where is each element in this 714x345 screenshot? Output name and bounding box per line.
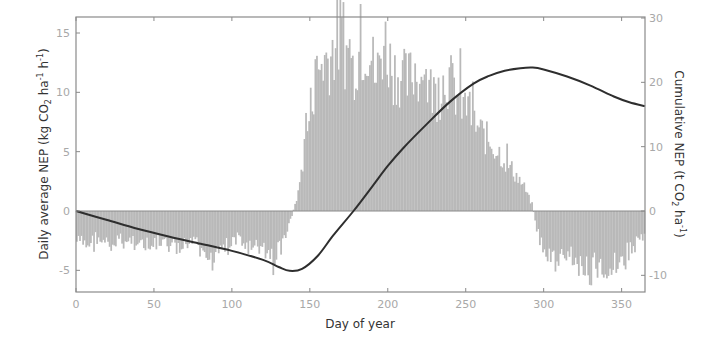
nep-bar	[631, 211, 633, 253]
nep-bar	[235, 211, 237, 245]
nep-bar	[224, 211, 226, 252]
nep-bar	[547, 211, 549, 261]
nep-bar	[567, 211, 569, 251]
nep-bar	[564, 211, 566, 258]
nep-bar	[294, 204, 296, 211]
nep-bar	[435, 84, 437, 211]
nep-bar	[280, 211, 282, 255]
nep-bar	[140, 211, 142, 240]
nep-bar	[194, 211, 196, 239]
nep-bar	[319, 70, 321, 211]
nep-bar	[428, 80, 430, 211]
nep-bar	[182, 211, 184, 249]
nep-bar	[541, 211, 543, 238]
nep-bar	[329, 95, 331, 211]
nep-bar	[464, 93, 466, 211]
nep-bar	[461, 119, 463, 211]
nep-bar	[219, 211, 221, 245]
x-tick-label: 150	[299, 298, 320, 311]
nep-bar	[495, 156, 497, 211]
nep-bar	[500, 166, 502, 211]
nep-bar	[252, 211, 254, 248]
nep-bar	[422, 80, 424, 211]
nep-bar	[352, 56, 354, 211]
nep-bar	[626, 211, 628, 243]
nep-bar	[305, 113, 307, 211]
nep-bar	[339, 0, 341, 211]
nep-bar	[550, 211, 552, 262]
nep-bar	[251, 211, 253, 250]
nep-bar	[118, 211, 120, 239]
nep-bar	[431, 113, 433, 211]
nep-bar	[115, 211, 117, 246]
nep-bar	[408, 53, 410, 211]
y-right-tick-label: 10	[649, 141, 663, 154]
nep-bar	[241, 211, 243, 246]
nep-chart: 050100150200250300350 -5051015 -10010203…	[0, 0, 714, 345]
nep-bar	[424, 74, 426, 211]
nep-bar	[165, 211, 167, 238]
nep-bar	[374, 83, 376, 211]
nep-bar	[548, 211, 550, 249]
nep-bar	[187, 211, 189, 248]
nep-bar	[537, 211, 539, 229]
nep-bar	[503, 163, 505, 211]
nep-bar	[299, 182, 301, 211]
nep-bar	[160, 211, 162, 246]
nep-bar	[300, 170, 302, 211]
nep-bar	[335, 48, 337, 211]
nep-bar	[229, 211, 231, 248]
nep-bar	[327, 59, 329, 211]
nep-bar	[456, 95, 458, 211]
nep-bar	[597, 211, 599, 278]
nep-bar	[545, 211, 547, 257]
x-tick-label: 100	[221, 298, 242, 311]
nep-bar	[134, 211, 136, 250]
nep-bar	[271, 211, 273, 249]
nep-bar	[389, 44, 391, 211]
nep-bar	[244, 211, 246, 249]
nep-bar	[151, 211, 153, 246]
nep-bar	[132, 211, 134, 236]
nep-bar	[619, 211, 621, 262]
nep-bar	[107, 211, 109, 242]
nep-bar	[364, 74, 366, 211]
nep-bar	[383, 46, 385, 211]
nep-bar	[511, 161, 513, 211]
nep-bar	[282, 211, 284, 238]
nep-bar	[344, 89, 346, 211]
nep-bar	[406, 96, 408, 211]
nep-bar	[260, 211, 262, 246]
nep-bar	[146, 211, 148, 238]
nep-bar	[450, 55, 452, 211]
nep-bar	[502, 167, 504, 211]
nep-bar	[402, 60, 404, 211]
nep-bar	[213, 211, 215, 263]
y-right-tick-label: 0	[649, 205, 656, 218]
nep-bar	[589, 211, 591, 285]
nep-bar	[466, 116, 468, 211]
nep-bar	[472, 81, 474, 211]
nep-bar	[534, 211, 536, 220]
nep-bar	[308, 121, 310, 211]
nep-bar	[539, 211, 541, 245]
nep-bar	[254, 211, 256, 246]
nep-bar	[441, 104, 443, 211]
nep-bar	[357, 90, 359, 211]
nep-bar	[112, 211, 114, 245]
nep-bar	[88, 211, 90, 247]
nep-bar	[609, 211, 611, 269]
nep-bar	[360, 4, 362, 211]
nep-bar	[358, 52, 360, 211]
y-axis-left-title: Daily average NEP (kg CO2 ha-1 h-1)	[36, 48, 53, 260]
nep-bar	[419, 84, 421, 211]
nep-bar	[296, 201, 298, 211]
nep-bar	[330, 56, 332, 211]
nep-bar	[346, 45, 348, 211]
nep-bar	[209, 211, 211, 260]
nep-bar	[157, 211, 159, 235]
nep-bar	[399, 108, 401, 211]
nep-bar	[353, 100, 355, 211]
nep-bar	[475, 132, 477, 211]
nep-bar	[633, 211, 635, 246]
